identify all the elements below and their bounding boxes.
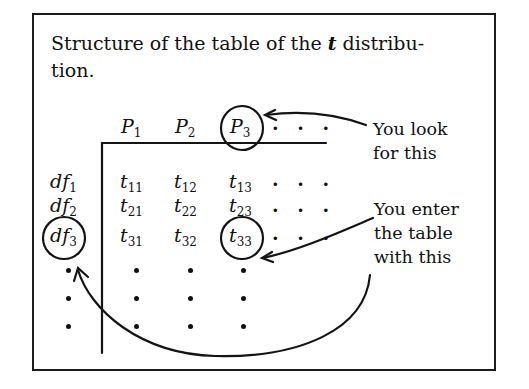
continuation-dot	[134, 268, 139, 273]
continuation-dot	[66, 268, 71, 273]
cell-t12: t12	[174, 170, 197, 195]
column-ellipsis: . . .	[272, 112, 335, 134]
row3-ellipsis: . . .	[272, 222, 335, 244]
row-header-df2: df2	[50, 194, 77, 219]
cell-t31: t31	[120, 224, 143, 249]
cell-t23: t23	[229, 194, 252, 219]
continuation-dot	[241, 296, 246, 301]
note-enter-table: You enter the table with this	[374, 197, 459, 269]
caption-text-start: Structure of the table of the	[51, 32, 328, 54]
note-look-for-this: You look for this	[373, 117, 448, 165]
note-line: the table	[374, 221, 459, 245]
continuation-dot	[241, 324, 246, 329]
column-header-p2: P2	[175, 115, 195, 140]
note-line: with this	[374, 245, 459, 269]
note-line: You look	[373, 117, 448, 141]
continuation-dot	[188, 324, 193, 329]
cell-t32: t32	[174, 224, 197, 249]
column-header-p1: P1	[121, 115, 141, 140]
cell-t21: t21	[120, 194, 143, 219]
row2-ellipsis: . . .	[272, 194, 335, 216]
continuation-dot	[66, 296, 71, 301]
note-line: You enter	[374, 197, 459, 221]
cell-t11: t11	[120, 170, 143, 195]
continuation-dot	[188, 296, 193, 301]
row-header-df1: df1	[50, 170, 77, 195]
continuation-dot	[134, 296, 139, 301]
continuation-dot	[241, 268, 246, 273]
cell-t22: t22	[174, 194, 197, 219]
row-header-df3: df3	[50, 224, 77, 249]
cell-t13: t13	[229, 170, 252, 195]
continuation-dot	[134, 324, 139, 329]
note-line: for this	[373, 141, 448, 165]
continuation-dot	[66, 324, 71, 329]
row1-ellipsis: . . .	[272, 168, 335, 190]
continuation-dot	[188, 268, 193, 273]
cell-t33: t33	[229, 224, 252, 249]
figure-caption: Structure of the table of the t distribu…	[51, 30, 491, 84]
column-header-p3: P3	[230, 115, 250, 140]
